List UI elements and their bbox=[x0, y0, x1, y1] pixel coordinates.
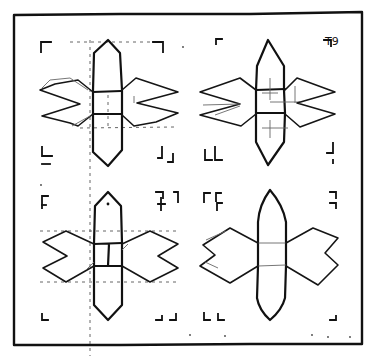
sketch-canvas: T9 bbox=[0, 0, 376, 356]
net-left-wing bbox=[43, 231, 94, 282]
panel-top-right: T9 bbox=[200, 35, 339, 165]
net-left-wing bbox=[200, 78, 256, 126]
net-vertical-arm bbox=[257, 190, 286, 320]
net-left-wing bbox=[200, 228, 258, 283]
panel-bottom-left bbox=[40, 192, 180, 320]
guide-line bbox=[80, 127, 175, 128]
panel-bottom-right bbox=[200, 190, 338, 320]
net-right-wing bbox=[285, 78, 335, 127]
net-center-square bbox=[94, 243, 122, 266]
net-center-square bbox=[258, 243, 286, 266]
crop-marks bbox=[204, 192, 336, 320]
net-vertical-arm bbox=[93, 40, 122, 166]
net-right-wing bbox=[286, 228, 338, 285]
net-right-wing bbox=[122, 231, 178, 282]
panel-top-left bbox=[40, 40, 178, 356]
net-vertical-arm bbox=[256, 40, 285, 165]
outer-frame bbox=[14, 12, 362, 345]
net-right-wing bbox=[122, 78, 178, 126]
stray-marks bbox=[40, 46, 351, 338]
crop-marks bbox=[41, 42, 173, 164]
corner-glyph: T9 bbox=[324, 35, 339, 48]
net-center-square bbox=[93, 91, 121, 114]
